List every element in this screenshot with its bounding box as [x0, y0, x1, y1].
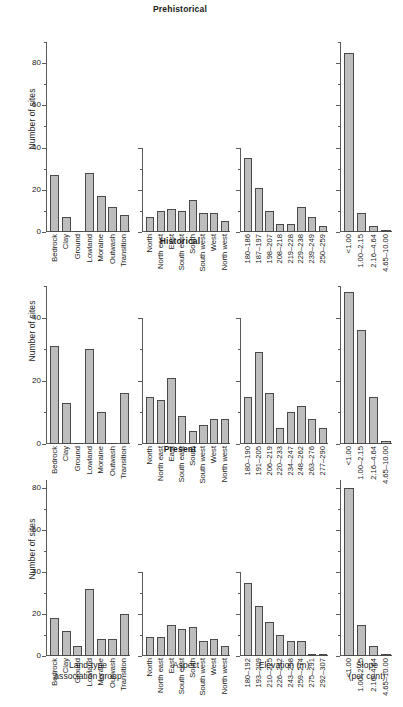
bar: [255, 606, 263, 656]
y-axis-tick-label: 60: [32, 101, 41, 109]
bar: [157, 211, 165, 232]
panel-title-present: Present: [20, 444, 340, 454]
y-axis-tick-major: [236, 190, 240, 191]
bar: [287, 641, 295, 656]
x-axis-tick-labels: NorthNorth eastEastSouth eastSouthSouth …: [145, 232, 230, 233]
x-axis-tick-label-slot: 208–218: [275, 232, 286, 233]
bar: [319, 428, 327, 444]
bar-series: [343, 42, 392, 232]
group-label-land-type-line2: association group: [40, 671, 136, 682]
bar-slot: [84, 480, 96, 656]
bar: [97, 196, 106, 232]
bar-slot: [368, 286, 380, 444]
bar: [199, 641, 207, 656]
panel-title-prehistorical: Prehistorical: [20, 4, 340, 14]
subplot-present-elevation: 180–192193–209210–225226–242243–258259–2…: [240, 480, 328, 656]
x-axis-tick-label-slot: 259–274: [296, 656, 307, 657]
y-axis-label-present: Number of sites: [27, 489, 37, 609]
x-axis-tick-label-slot: South west: [198, 656, 209, 657]
bar: [344, 488, 354, 656]
panel-prehistorical: Prehistorical Number of sites 020406080B…: [0, 4, 403, 232]
x-axis-tick-label-slot: 239–249: [307, 232, 318, 233]
bar: [244, 158, 252, 232]
group-label-aspect: Aspect: [142, 660, 230, 671]
x-axis-tick-label-slot: 219–228: [286, 232, 297, 233]
x-axis-tick-label-slot: South east: [177, 656, 188, 657]
y-axis-tick-major: [336, 572, 340, 573]
y-axis-tick-major: [42, 63, 46, 64]
subplot-prehistorical-elevation: 180–186187–197198–207208–218219–228229–2…: [240, 42, 328, 232]
bar-slot: [307, 42, 318, 232]
bar-slot: [49, 42, 61, 232]
x-axis-tick-label-slot: West: [209, 232, 220, 233]
bar-slot: [368, 42, 380, 232]
y-axis-tick-major: [138, 656, 142, 657]
y-axis-tick-major: [42, 190, 46, 191]
bar: [265, 393, 273, 444]
y-axis-tick-major: [42, 614, 46, 615]
y-axis-tick-minor: [338, 551, 341, 552]
x-axis-tick-label-slot: <1.00: [343, 656, 355, 657]
bar-slot: [264, 286, 275, 444]
bar: [276, 635, 284, 656]
y-axis-tick-minor: [238, 635, 241, 636]
x-axis-tick-label-slot: East: [166, 232, 177, 233]
group-label-elevation: Elevation (m): [238, 660, 330, 671]
bar: [221, 419, 229, 444]
y-axis-tick-label: 20: [32, 377, 41, 385]
bar-slot: [156, 286, 167, 444]
bar: [120, 614, 129, 656]
y-axis-tick-minor: [338, 412, 341, 413]
y-axis-tick-major: [42, 148, 46, 149]
x-axis-tick-label-slot: Transition: [118, 656, 130, 657]
y-axis-tick-major: [138, 572, 142, 573]
y-axis-tick-label: 0: [37, 228, 41, 236]
x-axis-tick-labels: NorthNorth eastEastSouth eastSouthSouth …: [145, 656, 230, 657]
x-axis-tick-label-slot: 229–238: [296, 232, 307, 233]
bar-slot: [355, 480, 367, 656]
plot-area: NorthNorth eastEastSouth eastSouthSouth …: [142, 42, 230, 232]
bar-slot: [275, 286, 286, 444]
y-axis-tick-major: [42, 572, 46, 573]
bar: [287, 412, 295, 444]
bar-slot: [72, 42, 84, 232]
bar-slot: [49, 480, 61, 656]
y-axis-tick-minor: [338, 635, 341, 636]
y-axis-tick-major: [138, 148, 142, 149]
bar-slot: [286, 480, 297, 656]
bar-slot: [286, 42, 297, 232]
plot-area: <1.001.00–2.152.16–4.644.65–10.00: [340, 480, 392, 656]
bar-slot: [145, 42, 156, 232]
y-axis-tick-label: 80: [32, 59, 41, 67]
x-axis-tick-label-slot: 243–258: [286, 656, 297, 657]
bar-slot: [243, 286, 254, 444]
bar-slot: [380, 286, 392, 444]
bar-slot: [49, 286, 61, 444]
bar: [146, 637, 154, 656]
y-axis-tick-major: [236, 656, 240, 657]
plot-area: NorthNorth eastEastSouth eastSouthSouth …: [142, 480, 230, 656]
bar: [308, 217, 316, 232]
bar: [297, 207, 305, 232]
bar: [369, 397, 379, 444]
group-label-land-type-line1: Land-type: [40, 660, 136, 671]
y-axis-tick-minor: [44, 593, 47, 594]
x-axis-tick-label-slot: South east: [177, 232, 188, 233]
bar-slot: [219, 480, 230, 656]
bar: [73, 646, 82, 656]
subplot-historical-land-type: 02040BedrockClayGroundLowlandMoraineOutw…: [46, 286, 130, 444]
x-axis-tick-labels: <1.001.00–2.152.16–4.644.65–10.00: [343, 232, 392, 233]
y-axis-tick-major: [236, 148, 240, 149]
bar-slot: [61, 42, 73, 232]
bar-slot: [296, 42, 307, 232]
bar-slot: [188, 286, 199, 444]
x-axis-tick-label-slot: West: [209, 656, 220, 657]
bar-slot: [209, 42, 220, 232]
bar: [178, 629, 186, 656]
x-axis-tick-labels: BedrockClayGroundLowlandMoraineOutwashTr…: [49, 232, 130, 233]
bar-slot: [166, 286, 177, 444]
y-axis-tick-minor: [238, 412, 241, 413]
x-axis-tick-label-slot: 187–197: [254, 232, 265, 233]
y-axis-tick-label: 0: [37, 652, 41, 660]
y-axis-tick-minor: [140, 169, 143, 170]
